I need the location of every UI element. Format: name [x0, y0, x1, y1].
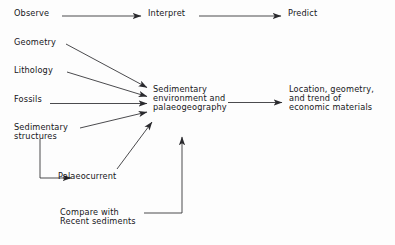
node-fossils: Fossils — [14, 95, 42, 104]
edge-palaeocurrent-to-environment — [117, 122, 152, 169]
edge-geometry-to-environment — [66, 44, 147, 88]
edge-structures-to-environment — [80, 112, 147, 128]
node-predict: Predict — [288, 9, 317, 18]
node-compare-recent-sediments: Compare with Recent sediments — [60, 208, 136, 226]
node-sedimentary-structures: Sedimentary structures — [14, 123, 68, 141]
edge-lithology-to-environment — [67, 72, 147, 97]
node-sedimentary-environment: Sedimentary environment and palaeogeogra… — [153, 85, 227, 113]
flowchart-diagram: Observe Interpret Predict Geometry Litho… — [0, 0, 395, 245]
edge-compare-to-environment — [144, 137, 182, 213]
node-geometry: Geometry — [14, 38, 56, 47]
node-lithology: Lithology — [14, 66, 53, 75]
node-observe: Observe — [14, 9, 49, 18]
node-interpret: Interpret — [148, 9, 185, 18]
node-economic-materials: Location, geometry, and trend of economi… — [289, 85, 374, 113]
node-palaeocurrent: Palaeocurrent — [58, 172, 116, 181]
